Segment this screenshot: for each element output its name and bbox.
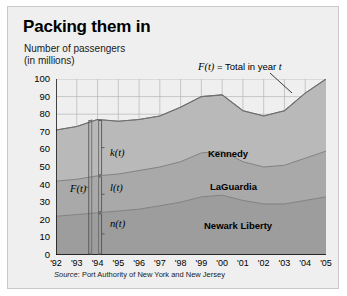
function-label: k(t) bbox=[110, 147, 125, 158]
x-tick-label: '05 bbox=[313, 258, 339, 268]
plot-area bbox=[56, 79, 326, 255]
y-tick-label: 70 bbox=[24, 126, 50, 137]
function-label: F(t) bbox=[70, 183, 86, 194]
stacked-areas bbox=[56, 79, 326, 255]
y-tick-label: 50 bbox=[24, 161, 50, 172]
source-prefix: Source bbox=[54, 270, 78, 279]
y-tick-label: 60 bbox=[24, 143, 50, 154]
y-tick-label: 80 bbox=[24, 108, 50, 119]
function-label: l(t) bbox=[110, 182, 123, 193]
chart-subtitle-line1: Number of passengers bbox=[24, 43, 125, 54]
chart-panel: Packing them in Number of passengers (in… bbox=[7, 6, 339, 289]
y-tick-label: 20 bbox=[24, 214, 50, 225]
band-label: LaGuardia bbox=[210, 181, 257, 192]
chart-svg bbox=[56, 79, 326, 255]
function-label: n(t) bbox=[110, 218, 125, 229]
total-annotation-symbol: F(t) bbox=[198, 61, 214, 72]
y-tick-label: 30 bbox=[24, 196, 50, 207]
y-tick-label: 10 bbox=[24, 231, 50, 242]
source-text: : Port Authority of New York and New Jer… bbox=[78, 270, 225, 279]
source-note: Source: Port Authority of New York and N… bbox=[54, 270, 225, 279]
y-tick-label: 90 bbox=[24, 91, 50, 102]
y-tick-label: 100 bbox=[24, 73, 50, 84]
band-label: Newark Liberty bbox=[204, 220, 272, 231]
total-annotation-var: t bbox=[279, 61, 282, 72]
total-annotation-label: F(t) = Total in year t bbox=[198, 61, 282, 72]
y-tick-label: 40 bbox=[24, 179, 50, 190]
total-annotation-text: = Total in year bbox=[214, 61, 279, 72]
band-label: Kennedy bbox=[208, 148, 248, 159]
chart-title: Packing them in bbox=[23, 17, 150, 37]
chart-subtitle-line2: (in millions) bbox=[24, 55, 75, 66]
